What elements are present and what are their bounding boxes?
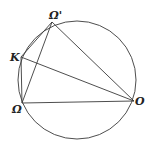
label-k: K	[9, 51, 20, 64]
label-o: O	[135, 95, 145, 108]
segment-omega-prime-k	[21, 22, 52, 57]
segment-omega-o	[22, 101, 134, 103]
segment-omega-prime-o	[52, 22, 134, 101]
circumcircle	[18, 21, 136, 139]
label-omega: Ω	[11, 103, 22, 116]
label-omega-prime: Ω'	[48, 9, 62, 22]
segment-k-o	[21, 57, 134, 101]
segment-k-omega	[21, 57, 22, 103]
geometry-diagram: Ω' K Ω O	[0, 0, 153, 157]
segment-omega-omega-prime	[22, 22, 52, 103]
